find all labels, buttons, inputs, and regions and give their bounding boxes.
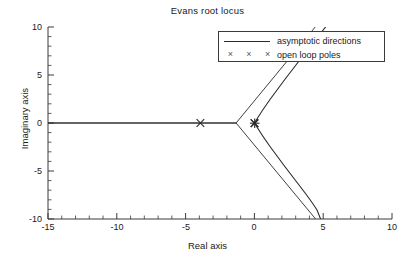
x-axis-minor-ticks bbox=[62, 216, 378, 220]
legend: asymptotic directions × × × open loop po… bbox=[218, 31, 385, 62]
legend-label-asymptotic: asymptotic directions bbox=[277, 36, 361, 46]
x-marker-icon: × bbox=[246, 50, 251, 59]
y-tick-label: -10 bbox=[22, 214, 42, 224]
legend-item-poles: × × × open loop poles bbox=[219, 47, 384, 62]
evans-root-locus-figure: Evans root locus bbox=[0, 0, 415, 259]
x-tick-label: 10 bbox=[387, 222, 397, 232]
x-tick-label: 5 bbox=[320, 222, 325, 232]
y-axis-label: Imaginary axis bbox=[19, 49, 30, 189]
legend-item-asymptotic: asymptotic directions bbox=[219, 33, 384, 48]
locus-lower-branch bbox=[254, 123, 321, 220]
x-marker-icon: × bbox=[265, 50, 270, 59]
x-tick-label: -5 bbox=[182, 222, 190, 232]
y-tick-label: 10 bbox=[22, 22, 42, 32]
legend-label-poles: open loop poles bbox=[277, 50, 341, 60]
x-axis-label: Real axis bbox=[0, 240, 415, 251]
x-tick-label: 0 bbox=[251, 222, 256, 232]
locus-upper-branch bbox=[254, 2, 345, 123]
x-tick-label: -10 bbox=[110, 222, 123, 232]
x-marker-icon: × bbox=[228, 50, 233, 59]
x-tick-label: -15 bbox=[41, 222, 54, 232]
asymptote-lower-line bbox=[236, 123, 316, 219]
legend-pole-swatch: × × × bbox=[219, 48, 277, 62]
pole-marker-origin-b bbox=[250, 118, 260, 128]
legend-line-swatch bbox=[219, 34, 277, 48]
x-axis-major-ticks bbox=[48, 213, 392, 219]
